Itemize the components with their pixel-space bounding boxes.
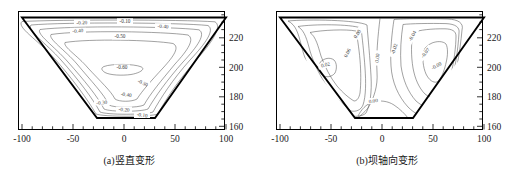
contour-label: -0.20 xyxy=(119,106,131,113)
x-tick-label: -100 xyxy=(271,134,289,144)
y-tick-labels-a: 220 200 180 160 xyxy=(229,33,244,132)
figure-container: -100 -50 0 50 100 220 200 180 160 xyxy=(0,0,516,175)
contour-label: -0.40 xyxy=(158,23,170,30)
contour-label: 0.00 xyxy=(374,53,381,63)
contour-label: -0.50 xyxy=(137,77,150,87)
y-tick-label: 160 xyxy=(487,122,502,132)
x-tick-label: 50 xyxy=(170,134,180,144)
panel-caption-b: (b)坝轴向变形 xyxy=(258,152,516,167)
x-tick-label: 0 xyxy=(380,134,385,144)
panel-vertical-deformation: -100 -50 0 50 100 220 200 180 160 xyxy=(0,0,258,175)
y-tick-label: 160 xyxy=(229,122,244,132)
y-tick-label: 220 xyxy=(229,33,244,43)
contour-label: -0.50 xyxy=(115,33,126,39)
contour-plot-a: -100 -50 0 50 100 220 200 180 160 xyxy=(0,0,258,152)
panel-axial-deformation: -100 -50 0 50 100 220 200 180 160 xyxy=(258,0,516,175)
x-tick-label: 100 xyxy=(477,134,492,144)
contour-label: -0.40 xyxy=(72,27,84,34)
contour-label: 0.02 xyxy=(320,60,331,68)
contour-label: -0.30 xyxy=(96,99,108,106)
contour-label: -0.20 xyxy=(76,19,88,26)
y-tick-label: 180 xyxy=(487,92,502,102)
plot-frame-b xyxy=(277,12,483,130)
x-tick-labels-a: -100 -50 0 50 100 xyxy=(13,134,233,144)
y-tick-label: 200 xyxy=(229,63,244,73)
panel-caption-a: (a)竖直变形 xyxy=(0,152,258,167)
x-tick-label: -50 xyxy=(67,134,80,144)
x-tick-label: -50 xyxy=(325,134,338,144)
y-tick-label: 220 xyxy=(487,33,502,43)
x-tick-labels-b: -100 -50 0 50 100 xyxy=(271,134,491,144)
contour-label: -0.10 xyxy=(120,18,131,24)
x-tick-label: -100 xyxy=(13,134,31,144)
y-tick-label: 200 xyxy=(487,63,502,73)
x-tick-label: 0 xyxy=(122,134,127,144)
x-tick-label: 50 xyxy=(428,134,438,144)
y-tick-label: 180 xyxy=(229,92,244,102)
y-tick-labels-b: 220 200 180 160 xyxy=(487,33,502,132)
contour-plot-b: -100 -50 0 50 100 220 200 180 160 xyxy=(258,0,516,152)
contour-label: -0.60 xyxy=(117,64,128,70)
x-tick-label: 100 xyxy=(219,134,234,144)
